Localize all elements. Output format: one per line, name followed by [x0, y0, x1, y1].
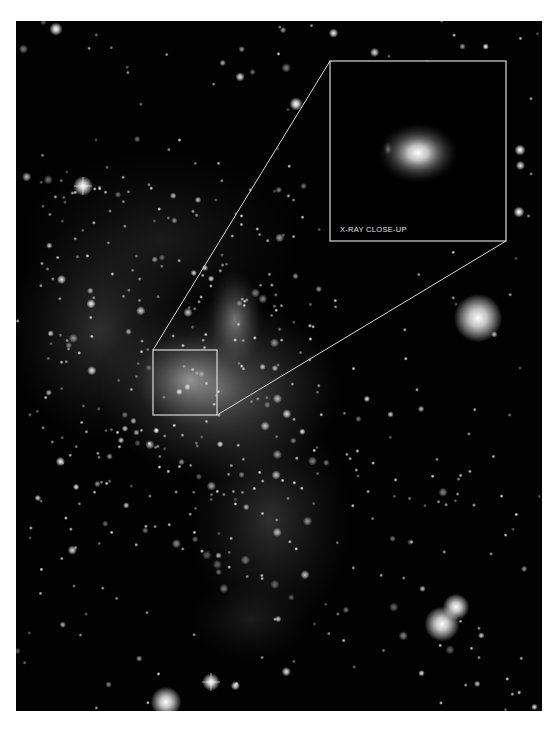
- star: [241, 339, 245, 343]
- star: [23, 661, 27, 665]
- star: [58, 333, 62, 337]
- star: [69, 527, 73, 531]
- star: [371, 461, 375, 465]
- star: [46, 389, 52, 395]
- star: [60, 360, 64, 364]
- star: [292, 235, 296, 239]
- star: [97, 542, 101, 546]
- star: [225, 262, 229, 266]
- star: [336, 612, 340, 616]
- star: [292, 320, 296, 324]
- star: [58, 297, 62, 301]
- star: [308, 456, 317, 465]
- star: [192, 536, 198, 542]
- star: [308, 324, 312, 328]
- star: [160, 264, 164, 268]
- star: [210, 493, 214, 497]
- star: [171, 217, 177, 223]
- star: [229, 536, 233, 540]
- star: [514, 256, 518, 260]
- star: [282, 409, 291, 418]
- star: [371, 517, 375, 521]
- star: [63, 200, 67, 204]
- star: [333, 299, 337, 303]
- star: [294, 547, 298, 551]
- star: [238, 471, 244, 477]
- nebula-cloud: [20, 150, 300, 330]
- star: [195, 213, 199, 217]
- star: [270, 283, 274, 287]
- star: [191, 368, 195, 372]
- star: [180, 433, 184, 437]
- star: [242, 367, 246, 371]
- star: [174, 490, 178, 494]
- star: [138, 277, 142, 281]
- star: [153, 525, 157, 529]
- star: [470, 646, 474, 650]
- star: [292, 481, 296, 485]
- star: [172, 423, 176, 427]
- star: [473, 408, 477, 412]
- star: [468, 469, 472, 473]
- star: [356, 474, 360, 478]
- star: [290, 382, 294, 386]
- star: [474, 681, 480, 687]
- star: [278, 327, 282, 331]
- star: [329, 28, 338, 37]
- star: [451, 250, 455, 254]
- star: [516, 161, 525, 170]
- star: [213, 560, 222, 569]
- star: [73, 484, 79, 490]
- star: [451, 296, 455, 300]
- star: [198, 371, 204, 377]
- star: [242, 303, 246, 307]
- star: [145, 365, 151, 371]
- star: [147, 442, 151, 446]
- star: [273, 617, 277, 621]
- starfield-canvas: [16, 21, 542, 711]
- star: [182, 364, 186, 368]
- star: [394, 478, 398, 482]
- star: [511, 527, 515, 531]
- star: [87, 288, 93, 294]
- star: [300, 570, 309, 579]
- star: [135, 254, 139, 258]
- star: [106, 241, 110, 245]
- star: [258, 294, 267, 303]
- bright-star: [454, 294, 502, 342]
- star: [355, 449, 359, 453]
- star: [102, 521, 108, 527]
- star: [39, 591, 43, 595]
- star: [444, 503, 448, 507]
- star: [47, 330, 53, 336]
- star: [389, 603, 398, 612]
- star: [335, 541, 339, 545]
- star: [457, 477, 461, 481]
- star: [133, 429, 139, 435]
- star: [477, 656, 481, 660]
- star: [51, 277, 55, 281]
- star: [407, 539, 413, 545]
- star: [295, 456, 299, 460]
- star: [204, 333, 208, 337]
- star: [215, 489, 219, 493]
- star: [319, 413, 323, 417]
- star: [94, 138, 98, 142]
- star: [282, 63, 291, 72]
- star: [240, 490, 244, 494]
- star: [87, 366, 96, 375]
- star: [106, 453, 112, 459]
- bright-star: [151, 687, 182, 711]
- star: [292, 198, 296, 202]
- star: [249, 69, 255, 75]
- star: [270, 580, 279, 589]
- star: [227, 550, 231, 554]
- star: [261, 512, 265, 516]
- star: [402, 576, 406, 580]
- star: [287, 164, 291, 168]
- star: [39, 180, 43, 184]
- star: [199, 295, 203, 299]
- star: [217, 441, 223, 447]
- star: [177, 259, 181, 263]
- star: [399, 631, 408, 640]
